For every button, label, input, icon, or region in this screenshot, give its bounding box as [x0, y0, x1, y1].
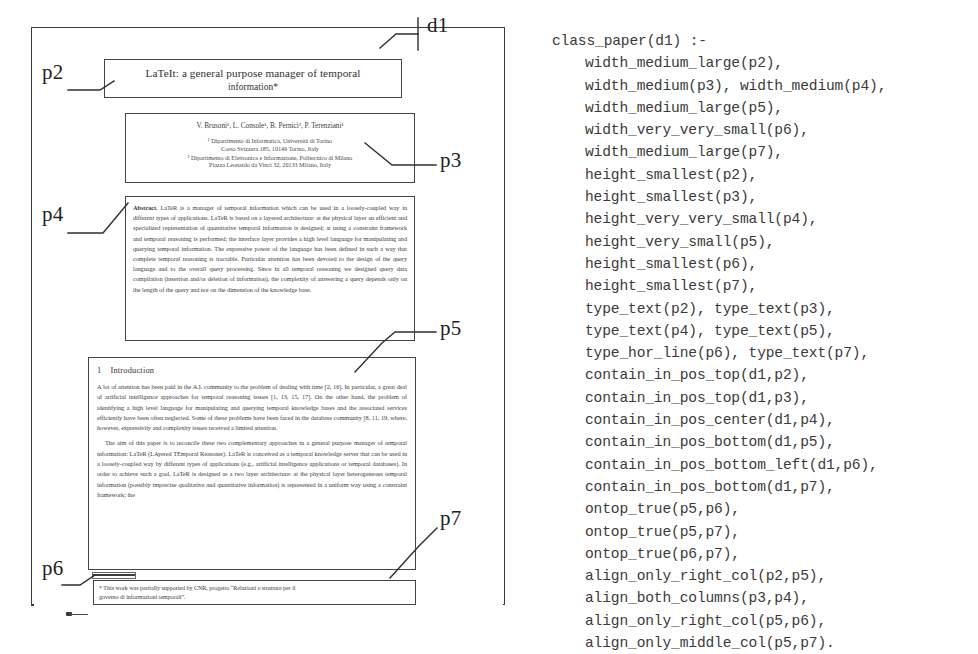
code-line-25: align_both_columns(p3,p4), — [552, 587, 972, 609]
code-line-7: height_smallest(p3), — [552, 186, 972, 208]
part-label-p5: p5 — [440, 318, 461, 339]
part-label-p2: p2 — [42, 62, 63, 83]
code-line-21: ontop_true(p5,p6), — [552, 498, 972, 520]
code-line-27: align_only_middle_col(p5,p7). — [552, 632, 972, 654]
title-block-p2: LaTeIt: a general purpose manager of tem… — [104, 59, 402, 98]
code-line-11: height_smallest(p7), — [552, 275, 972, 297]
author-block-p3: V. Brusoni¹, L. Console¹, B. Pernici², P… — [125, 113, 415, 183]
footnote-line-1: * This work was partially supported by C… — [94, 581, 415, 593]
code-line-1: width_medium_large(p2), — [552, 52, 972, 74]
part-label-p3: p3 — [440, 150, 461, 171]
code-line-16: contain_in_pos_top(d1,p3), — [552, 387, 972, 409]
code-line-24: align_only_right_col(p2,p5), — [552, 565, 972, 587]
affiliation-2-line-2: Piazza Leonardo da Vinci 32, 20133 Milan… — [126, 162, 414, 168]
code-line-18: contain_in_pos_bottom(d1,p5), — [552, 431, 972, 453]
tick-tail — [71, 614, 88, 615]
footnote-block-p7: * This work was partially supported by C… — [93, 580, 416, 605]
code-line-23: ontop_true(p6,p7), — [552, 543, 972, 565]
horizontal-rule-block-p6 — [93, 574, 135, 577]
code-line-20: contain_in_pos_bottom(d1,p7), — [552, 476, 972, 498]
code-line-14: type_hor_line(p6), type_text(p7), — [552, 342, 972, 364]
part-label-p7: p7 — [440, 508, 461, 529]
part-label-p6: p6 — [42, 558, 63, 579]
abstract-body: LaTeR is a manager of temporal informati… — [133, 204, 407, 293]
abstract-heading: Abstract. — [133, 204, 158, 211]
rule-line — [93, 574, 135, 576]
affiliation-1-line-1: ¹ Dipartimento di Informatica, Universit… — [126, 138, 414, 144]
abstract-block-p4: Abstract. LaTeR is a manager of temporal… — [125, 196, 415, 341]
body-paragraph-1: A lot of attention has been paid in the … — [97, 383, 407, 431]
code-line-3: width_medium_large(p5), — [552, 97, 972, 119]
body-text: A lot of attention has been paid in the … — [89, 375, 415, 500]
prolog-code-block: class_paper(d1) :-width_medium_large(p2)… — [552, 30, 972, 654]
code-line-5: width_medium_large(p7), — [552, 141, 972, 163]
body-block-p5: 1Introduction A lot of attention has bee… — [88, 357, 416, 570]
part-label-d1: d1 — [427, 15, 448, 36]
body-paragraph-2: The aim of this paper is to reconcile th… — [97, 438, 407, 500]
code-line-22: ontop_true(p5,p7), — [552, 521, 972, 543]
page-corner-tick — [66, 612, 88, 616]
code-line-9: height_very_small(p5), — [552, 231, 972, 253]
code-line-17: contain_in_pos_center(d1,p4), — [552, 409, 972, 431]
code-line-15: contain_in_pos_top(d1,p2), — [552, 364, 972, 386]
code-line-8: height_very_very_small(p4), — [552, 208, 972, 230]
code-listing-panel: class_paper(d1) :-width_medium_large(p2)… — [552, 30, 972, 654]
code-line-4: width_very_very_small(p6), — [552, 119, 972, 141]
code-line-12: type_text(p2), type_text(p3), — [552, 298, 972, 320]
code-line-head: class_paper(d1) :- — [552, 30, 972, 52]
title-line-1: LaTeIt: a general purpose manager of tem… — [105, 67, 401, 79]
author-names: V. Brusoni¹, L. Console¹, B. Pernici², P… — [126, 122, 414, 130]
annotated-document-figure: LaTeIt: a general purpose manager of tem… — [0, 0, 540, 636]
affiliation-2-line-1: ² Dipartimento di Elettronica e Informaz… — [126, 155, 414, 161]
code-body: width_medium_large(p2),width_medium(p3),… — [552, 52, 972, 654]
code-line-13: type_text(p4), type_text(p5), — [552, 320, 972, 342]
part-label-p4: p4 — [42, 204, 63, 225]
title-line-2: information* — [105, 82, 401, 92]
section-heading: 1Introduction — [89, 358, 415, 375]
footnote-line-2: governo di informazioni temporali”. — [94, 593, 415, 602]
section-number: 1 — [97, 366, 101, 375]
abstract-text-wrap: Abstract. LaTeR is a manager of temporal… — [126, 197, 414, 295]
code-line-10: height_smallest(p6), — [552, 253, 972, 275]
code-line-6: height_smallest(p2), — [552, 164, 972, 186]
frame-bottom-stub — [31, 604, 34, 606]
section-title: Introduction — [110, 366, 154, 375]
code-line-2: width_medium(p3), width_medium(p4), — [552, 75, 972, 97]
affiliation-1-line-2: Corso Svizzera 185, 10149 Torino, Italy — [126, 146, 414, 152]
code-line-26: align_only_right_col(p5,p6), — [552, 610, 972, 632]
code-line-19: contain_in_pos_bottom_left(d1,p6), — [552, 454, 972, 476]
